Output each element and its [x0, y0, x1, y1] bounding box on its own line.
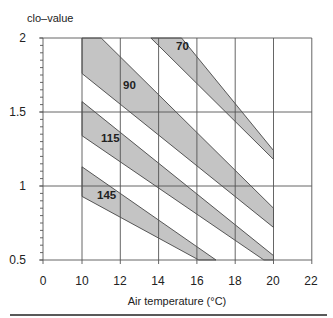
x-tick-0: 0	[40, 274, 47, 288]
y-tick-1: 1	[19, 179, 26, 193]
y-tick-2: 2	[19, 31, 26, 45]
x-axis-title: Air temperature (°C)	[128, 295, 227, 307]
band-label-115: 115	[101, 132, 120, 144]
clo-value-chart: clo–value 70 90 115 145 2 1.5 1 0.5 0 10…	[0, 0, 333, 318]
y-tick-0-5: 0.5	[9, 253, 26, 267]
y-tick-1-5: 1.5	[9, 105, 26, 119]
x-tick-10: 10	[75, 274, 89, 288]
band-label-90: 90	[123, 79, 136, 91]
x-tick-16: 16	[190, 274, 204, 288]
bands-group	[82, 38, 274, 260]
band-label-70: 70	[176, 40, 189, 52]
y-axis-title: clo–value	[27, 12, 73, 24]
x-tick-12: 12	[113, 274, 127, 288]
x-tick-18: 18	[228, 274, 242, 288]
x-tick-14: 14	[151, 274, 165, 288]
band-label-145: 145	[97, 189, 117, 201]
x-tick-20: 20	[266, 274, 280, 288]
x-tick-22: 22	[304, 274, 318, 288]
